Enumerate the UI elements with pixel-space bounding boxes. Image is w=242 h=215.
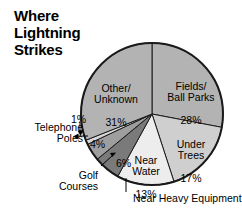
slice-label-fields-ball-parks-text: Fields/ Ball Parks [167,80,214,103]
slice-label-other-unknown: Other/ Unknown 31% [84,72,148,128]
slice-label-near-water-text: Near Water [132,154,160,177]
slice-value-fields-ball-parks: 28% [180,114,201,126]
chart-canvas: Where Lightning Strikes Other/ Unknown 3… [0,0,242,215]
callout-label-telephone-poles: Telephone Poles [9,122,83,144]
slice-value-other-unknown: 31% [105,116,126,128]
slice-label-other-unknown-text: Other/ Unknown [94,82,138,105]
slice-value-near-heavy-equipment: 6% [116,157,131,169]
slice-label-under-trees-text: Under Trees [177,138,206,161]
slice-label-under-trees: Under Trees 17% [166,128,216,184]
slice-value-golf-courses: 4% [90,138,105,150]
slice-label-fields-ball-parks: Fields/ Ball Parks 28% [160,70,222,126]
callout-label-near-heavy-equipment: Near Heavy Equipment [133,193,242,204]
slice-value-under-trees: 17% [180,172,201,184]
callout-label-golf-courses: Golf Courses [40,170,98,192]
